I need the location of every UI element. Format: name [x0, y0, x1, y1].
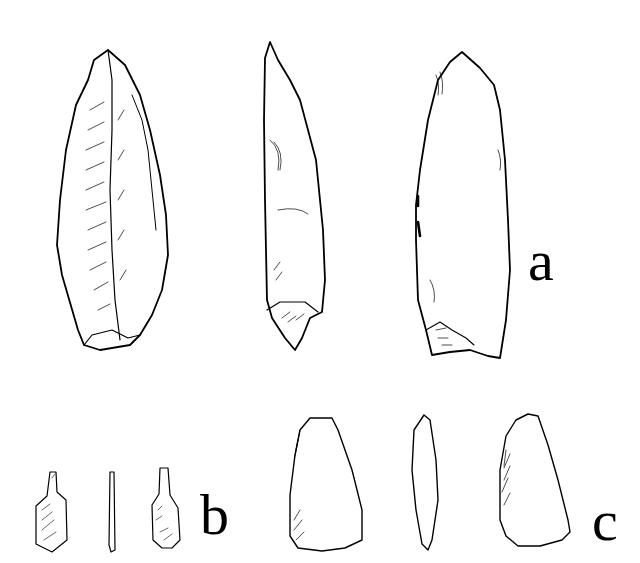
tool-c-view-2: [412, 415, 438, 550]
group-label-b: b: [200, 486, 229, 544]
tool-a-view-2: [264, 42, 325, 350]
tool-b-view-2: [109, 472, 115, 552]
tool-a-view-3: [416, 52, 510, 358]
tool-c-view-1: [290, 418, 362, 551]
group-label-a: a: [528, 232, 554, 290]
tool-c-view-3: [500, 414, 570, 546]
group-label-c: c: [592, 492, 618, 550]
tool-b-view-3: [152, 468, 180, 548]
tool-b-view-1: [36, 472, 67, 552]
tool-a-view-1: [57, 50, 168, 350]
